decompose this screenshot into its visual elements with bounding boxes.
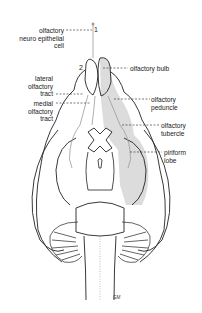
label-line: neuro epithelial <box>19 35 64 43</box>
label-piriform-lobe: piriform lobe <box>164 149 186 164</box>
artist-signature: GM <box>113 295 120 300</box>
label-line: olfactory <box>161 122 186 130</box>
label-lateral-olfactory-tract: lateral olfactory tract <box>28 75 53 98</box>
left-piriform-lobe <box>56 138 76 205</box>
label-line: tract <box>28 115 53 123</box>
label-olfactory-tubercle: olfactory tubercle <box>161 122 186 137</box>
right-cerebellum <box>118 222 150 262</box>
label-line: piriform <box>164 149 186 157</box>
hypothalamus <box>86 152 114 190</box>
brainstem <box>84 236 116 300</box>
optic-chiasm <box>88 128 112 152</box>
left-hemisphere-outline <box>36 70 85 262</box>
label-line: olfactory <box>19 27 64 35</box>
marker-2: 2 <box>79 64 83 71</box>
pons <box>76 202 124 236</box>
label-line: tract <box>28 90 53 98</box>
label-line: peduncle <box>151 104 178 112</box>
label-line: cell <box>19 42 64 50</box>
label-line: lobe <box>164 157 186 165</box>
label-olfactory-peduncle: olfactory peduncle <box>151 96 178 111</box>
label-medial-olfactory-tract: medial olfactory tract <box>28 100 53 123</box>
lateral-olfactory-tract-path <box>69 95 88 168</box>
medial-olfactory-tract-path <box>92 96 95 125</box>
marker-1: 1 <box>94 26 98 33</box>
label-line: medial <box>28 100 53 108</box>
label-line: olfactory <box>28 108 53 116</box>
label-line: tubercle <box>161 130 186 138</box>
label-line: lateral <box>28 75 53 83</box>
label-line: olfactory <box>151 96 178 104</box>
label-neuro-epithelial-cell: olfactory neuro epithelial cell <box>19 27 64 50</box>
label-olfactory-bulb: olfactory bulb <box>130 65 169 73</box>
left-olfactory-bulb <box>85 59 98 95</box>
label-line: olfactory bulb <box>130 65 169 73</box>
label-line: olfactory <box>28 83 53 91</box>
pituitary-stalk <box>98 159 102 169</box>
